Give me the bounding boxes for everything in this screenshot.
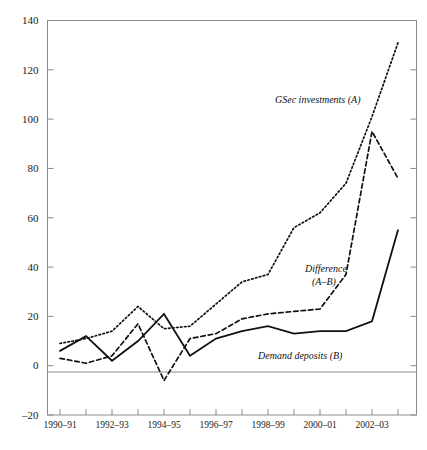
x-tick-label: 1992–93 [95,420,129,430]
y-tick-label: –20 [21,409,39,421]
annotation-difference-line1: Difference [304,263,347,274]
x-tick-label: 2002–03 [355,420,389,430]
chart-container: –20020406080100120140 1990–911992–931994… [0,0,427,450]
x-tick-label: 2000–01 [303,420,337,430]
y-tick-label: 140 [22,14,39,26]
y-tick-label: 120 [22,64,39,76]
annotation-difference-line2: (A–B) [312,276,337,288]
y-tick-label: 100 [22,113,39,125]
line-chart: –20020406080100120140 1990–911992–931994… [0,0,427,450]
x-tick-label: 1994–95 [147,420,181,430]
x-tick-label: 1990–91 [43,420,77,430]
y-tick-label: 0 [33,359,39,371]
y-tick-label: 60 [28,212,40,224]
x-tick-label: 1998–99 [251,420,285,430]
annotation-demand-deposits: Demand deposits (B) [257,350,343,362]
y-tick-label: 80 [28,162,40,174]
y-tick-label: 20 [28,310,40,322]
x-tick-label: 1996–97 [199,420,233,430]
annotation-gsec-investments: GSec investments (A) [275,94,361,106]
y-tick-label: 40 [28,261,40,273]
chart-background [0,0,427,450]
